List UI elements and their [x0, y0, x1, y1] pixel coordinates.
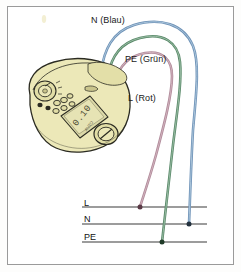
diagram-canvas: 0.10 AUTO [0, 0, 241, 272]
installation-tester-device[interactable]: 0.10 AUTO [29, 59, 130, 153]
connection-dot-l [138, 205, 143, 210]
wire-label-l: L (Rot) [128, 93, 156, 103]
wire-label-pe: PE (Grün) [125, 54, 166, 64]
bus-label-l: L [84, 198, 89, 208]
connection-dot-n [187, 222, 192, 227]
rotary-selector-dial[interactable] [34, 81, 56, 101]
connection-dot-pe [160, 240, 165, 245]
scan-artifact [42, 15, 46, 23]
range-knob[interactable] [94, 124, 118, 145]
bus-label-pe: PE [84, 232, 96, 242]
wire-label-n: N (Blau) [91, 15, 125, 25]
diagram-root: 0.10 AUTO N (Blau) PE (Grün) L (Rot) L [0, 0, 241, 272]
wire-pe-green [108, 36, 180, 242]
bus-label-n: N [84, 214, 91, 224]
